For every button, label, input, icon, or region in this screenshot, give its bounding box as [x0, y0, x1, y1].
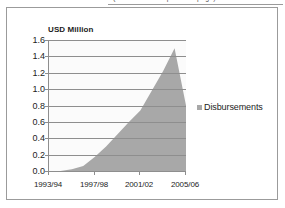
y-tick-mark: [45, 138, 48, 139]
legend-swatch-disbursements: [197, 105, 202, 110]
y-tick-mark: [45, 122, 48, 123]
x-tick-label: 1997/98: [72, 180, 116, 189]
x-tick-mark: [139, 171, 140, 175]
gridline: [49, 122, 186, 123]
top-cropped-fragment: (continued from previous page): [0, 0, 285, 6]
x-tick-mark: [185, 171, 186, 175]
chart-container: USD Million 1.61.41.21.00.80.60.40.20.0 …: [6, 7, 278, 200]
area-series-polygon: [49, 48, 186, 171]
y-tick-label: 1.4: [19, 52, 45, 61]
y-tick-label: 0.4: [19, 134, 45, 143]
cropped-caption-text: (continued from previous page): [113, 0, 216, 1]
gridline: [49, 155, 186, 156]
x-tick-mark: [94, 171, 95, 175]
chart-legend: Disbursements: [197, 102, 263, 112]
x-tick-label: 2001/02: [117, 180, 161, 189]
y-tick-mark: [45, 73, 48, 74]
y-tick-label: 1.6: [19, 36, 45, 45]
y-tick-label: 0.2: [19, 151, 45, 160]
x-tick-mark: [48, 171, 49, 175]
y-axis-tick-labels: 1.61.41.21.00.80.60.40.20.0: [15, 40, 45, 171]
x-tick-label: 2005/06: [163, 180, 207, 189]
gridline: [49, 73, 186, 74]
gridline: [49, 106, 186, 107]
x-tick-label: 1993/94: [26, 180, 70, 189]
gridline: [49, 89, 186, 90]
legend-label-disbursements: Disbursements: [204, 102, 263, 112]
y-axis-title: USD Million: [48, 25, 94, 34]
y-tick-mark: [45, 155, 48, 156]
y-tick-mark: [45, 40, 48, 41]
gridline: [49, 171, 186, 172]
y-tick-mark: [45, 89, 48, 90]
gridline: [49, 56, 186, 57]
y-tick-label: 1.2: [19, 69, 45, 78]
cropped-rule: [108, 4, 283, 5]
y-tick-mark: [45, 106, 48, 107]
gridline: [49, 138, 186, 139]
y-tick-mark: [45, 56, 48, 57]
y-tick-label: 0.8: [19, 102, 45, 111]
gridline: [49, 40, 186, 41]
y-tick-label: 0.6: [19, 118, 45, 127]
y-tick-label: 0.0: [19, 167, 45, 176]
y-tick-label: 1.0: [19, 85, 45, 94]
plot-area: [48, 40, 186, 171]
